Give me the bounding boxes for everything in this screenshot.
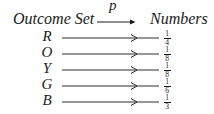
probability-fraction: 1 8 (162, 62, 172, 78)
outcome-label: G (39, 76, 55, 93)
fraction-numerator: 1 (165, 46, 169, 53)
fraction-denominator: 3 (165, 103, 169, 110)
mapping-arrow-icon (62, 50, 160, 58)
mapping-arrow-icon (62, 82, 160, 90)
outcome-label: R (39, 28, 55, 45)
outcome-label: O (39, 44, 55, 61)
mapping-arrow-icon (62, 34, 160, 42)
outcome-label: Y (39, 60, 55, 77)
probability-fraction: 1 8 (162, 46, 172, 62)
probability-fraction: 1 4 (162, 30, 172, 46)
mapping-arrow-icon (62, 98, 160, 106)
outcome-label: B (39, 92, 55, 109)
probability-fraction: 1 3 (162, 94, 172, 110)
probability-fraction: 1 6 (162, 78, 172, 94)
fraction-numerator: 1 (165, 62, 169, 69)
domain-label: Outcome Set (13, 10, 94, 28)
mapping-arrow-icon (62, 66, 160, 74)
function-arrow-icon (97, 19, 137, 25)
fraction-numerator: 1 (165, 94, 169, 101)
codomain-label: Numbers (150, 10, 208, 28)
fraction-numerator: 1 (165, 78, 169, 85)
function-label: p (109, 0, 117, 14)
fraction-numerator: 1 (165, 30, 169, 37)
